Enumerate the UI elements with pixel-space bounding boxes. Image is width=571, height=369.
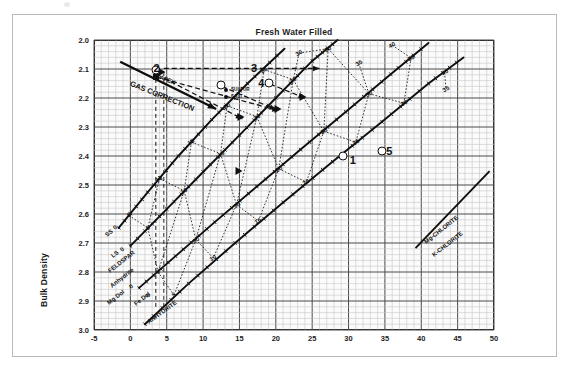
y-tick-label: 2.3 — [65, 123, 89, 132]
x-tick-label: 35 — [381, 334, 389, 343]
y-tick-label: 2.9 — [65, 297, 89, 306]
legend-marker-icon — [224, 95, 228, 99]
data-point-filled-triangle — [236, 167, 243, 175]
x-tick-label: 15 — [235, 334, 243, 343]
annotation-number-3: 3 — [251, 62, 257, 74]
data-point-filled-triangle — [237, 113, 244, 121]
annotation-number-2: 2 — [153, 62, 159, 74]
x-tick-label: 30 — [344, 334, 352, 343]
legend-marker-icon — [224, 88, 228, 92]
x-tick-label: 10 — [199, 334, 207, 343]
figure-page: Fresh Water Filled CNL Porosity Limeston… — [0, 0, 571, 369]
curve-layer — [94, 40, 494, 330]
data-point-filled-triangle — [300, 93, 307, 101]
legend: SULFURSALT — [224, 86, 250, 100]
x-tick-label: 40 — [417, 334, 425, 343]
x-tick-label: 0 — [128, 334, 132, 343]
chart-title: Fresh Water Filled — [94, 27, 494, 37]
y-tick-label: 2.2 — [65, 94, 89, 103]
x-tick-label: 45 — [453, 334, 461, 343]
annotation-number-4: 4 — [258, 77, 264, 89]
y-tick-label: 2.0 — [65, 36, 89, 45]
x-tick-label: 5 — [165, 334, 169, 343]
y-tick-label: 2.7 — [65, 239, 89, 248]
x-tick-label: 50 — [490, 334, 498, 343]
x-tick-label: 20 — [272, 334, 280, 343]
legend-label: SALT — [231, 93, 243, 100]
y-axis-title: Bulk Density — [39, 220, 49, 340]
plot-area: -5051015202530354045502.02.12.22.32.42.5… — [94, 40, 494, 330]
annotation-number-1: 1 — [350, 154, 356, 166]
legend-label: SULFUR — [231, 86, 250, 93]
y-tick-label: 2.8 — [65, 268, 89, 277]
data-point-open-circle — [338, 152, 347, 161]
x-tick-label: -5 — [91, 334, 98, 343]
y-tick-label: 3.0 — [65, 326, 89, 335]
legend-item: SULFUR — [224, 86, 250, 93]
y-tick-label: 2.6 — [65, 210, 89, 219]
data-point-open-circle — [378, 146, 387, 155]
legend-item: SALT — [224, 93, 250, 100]
y-tick-label: 2.1 — [65, 65, 89, 74]
x-tick-label: 25 — [308, 334, 316, 343]
y-tick-label: 2.5 — [65, 181, 89, 190]
scan-artifact — [64, 2, 70, 7]
data-point-filled-triangle — [275, 105, 282, 113]
annotation-number-5: 5 — [386, 145, 392, 157]
data-point-open-circle — [264, 78, 273, 87]
y-tick-label: 2.4 — [65, 152, 89, 161]
